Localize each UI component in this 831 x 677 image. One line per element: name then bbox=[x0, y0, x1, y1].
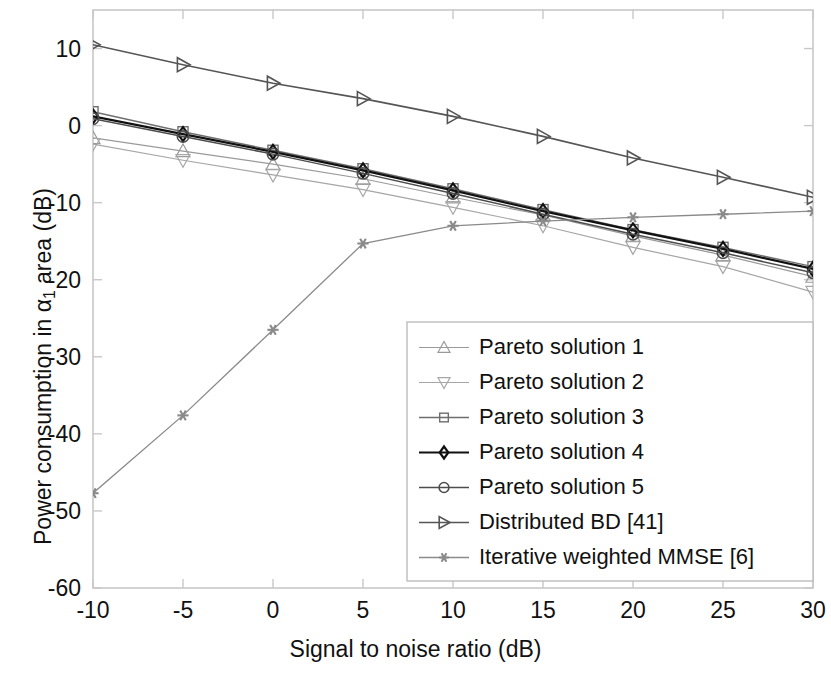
legend-label: Pareto solution 1 bbox=[479, 334, 644, 359]
y-tick-label: 10 bbox=[55, 36, 81, 62]
line-chart: -10-5051015202530100-10-20-30-40-50-60 P… bbox=[0, 0, 831, 677]
chart-legend[interactable]: Pareto solution 1Pareto solution 2Pareto… bbox=[407, 322, 813, 581]
x-tick-label: -10 bbox=[76, 597, 109, 623]
legend-label: Pareto solution 5 bbox=[479, 474, 644, 499]
chart-figure: -10-5051015202530100-10-20-30-40-50-60 P… bbox=[0, 0, 831, 677]
legend-label: Pareto solution 3 bbox=[479, 404, 644, 429]
x-tick-label: -5 bbox=[173, 597, 193, 623]
x-tick-label: 0 bbox=[267, 597, 280, 623]
x-tick-label: 10 bbox=[440, 597, 466, 623]
x-tick-label: 30 bbox=[800, 597, 826, 623]
x-tick-label: 15 bbox=[530, 597, 556, 623]
x-tick-label: 25 bbox=[710, 597, 736, 623]
x-tick-label: 20 bbox=[620, 597, 646, 623]
x-tick-label: 5 bbox=[357, 597, 370, 623]
y-tick-label: 0 bbox=[68, 113, 81, 139]
y-axis-title-wrap: Power consumption in α1 area (dB) bbox=[0, 0, 40, 600]
legend-label: Pareto solution 4 bbox=[479, 439, 644, 464]
legend-label: Pareto solution 2 bbox=[479, 369, 644, 394]
legend-label: Distributed BD [41] bbox=[479, 509, 664, 534]
y-tick-label: -60 bbox=[48, 575, 81, 601]
x-axis-title: Signal to noise ratio (dB) bbox=[0, 636, 831, 663]
legend-label: Iterative weighted MMSE [6] bbox=[479, 544, 754, 569]
y-axis-title: Power consumption in α1 area (dB) bbox=[30, 188, 59, 545]
